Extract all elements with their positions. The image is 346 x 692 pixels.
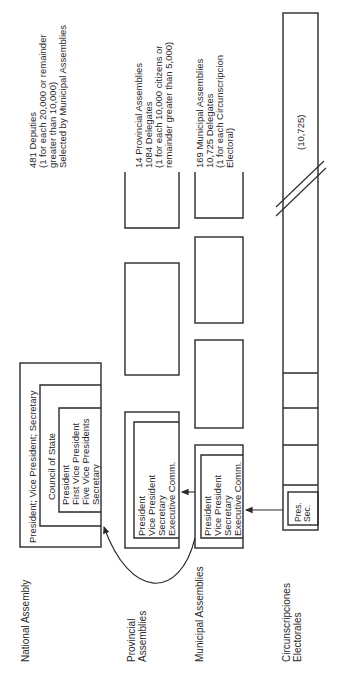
national-description: 481 Deputies (1 for each 20,000 or remai… xyxy=(28,25,68,168)
label-national-assembly: National Assembly xyxy=(21,580,32,662)
label-circunscripciones: Circunscripciones Electorales xyxy=(282,583,303,662)
provincial-box xyxy=(125,263,179,375)
circunscripciones-count: (10,725) xyxy=(296,115,306,150)
provincial-exec-members: President Vice President Secretary Execu… xyxy=(137,462,177,536)
label-provincial-assemblies: Provincial Assemblies xyxy=(127,611,148,662)
national-officers: President; Vice President; Secretary xyxy=(28,391,38,543)
circunscripciones-strip xyxy=(283,13,318,530)
provincial-box-open xyxy=(125,172,179,228)
municipal-exec-members: President Vice President Secretary Execu… xyxy=(203,462,243,536)
council-of-state-title: Council of State xyxy=(47,433,57,500)
municipal-box-open xyxy=(195,172,243,218)
provincial-description: 14 Provincial Assemblies 1084 Delegates … xyxy=(134,42,174,168)
pres-sec-label: Pres. Sec. xyxy=(294,502,312,522)
municipal-description: 169 Municipal Assemblies 10,725 Delegate… xyxy=(195,55,235,168)
label-municipal-assemblies: Municipal Assemblies xyxy=(195,566,206,662)
council-of-state-members: President First Vice President Five Vice… xyxy=(61,419,101,505)
municipal-box-1 xyxy=(195,237,243,323)
municipal-box-2 xyxy=(195,340,243,428)
